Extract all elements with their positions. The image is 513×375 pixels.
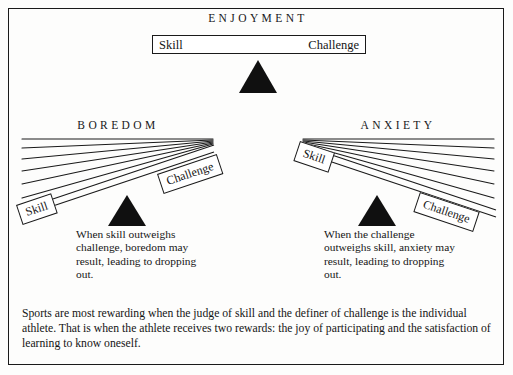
anxiety-fan-lines (303, 139, 494, 198)
diagram-page: ENJOYMENT Skill Challenge BOREDOM Skill … (0, 0, 513, 375)
heading-boredom: BOREDOM (38, 119, 198, 131)
enjoyment-beam-bar: Skill Challenge (152, 35, 366, 54)
summary-paragraph: Sports are most rewarding when the judge… (22, 306, 492, 352)
caption-anxiety: When the challenge outweighs skill, anxi… (324, 228, 456, 282)
enjoyment-skill-label: Skill (159, 37, 183, 53)
heading-enjoyment: ENJOYMENT (158, 12, 358, 24)
caption-boredom: When skill outweighs challenge, boredom … (76, 228, 208, 282)
fulcrum-triangle-enjoyment (239, 60, 277, 93)
fulcrum-triangle-boredom (108, 195, 146, 226)
fulcrum-triangle-anxiety (358, 195, 396, 226)
enjoyment-challenge-label: Challenge (308, 37, 359, 53)
heading-anxiety: ANXIETY (318, 119, 478, 131)
